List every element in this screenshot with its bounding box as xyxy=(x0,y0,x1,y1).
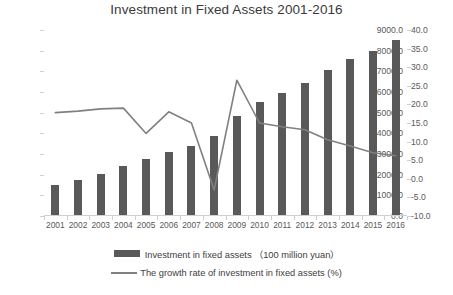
x-axis-tick-label: 2002 xyxy=(69,220,88,230)
right-axis-tick-label: -5.0 xyxy=(411,192,451,202)
x-axis-tick xyxy=(67,216,68,220)
x-axis-tick xyxy=(294,216,295,220)
x-axis-tick-label: 2009 xyxy=(228,220,247,230)
right-axis-tick-label: 5.0 xyxy=(411,155,451,165)
x-axis-tick xyxy=(407,216,408,220)
x-axis-tick xyxy=(339,216,340,220)
right-axis-tick-label: 40.0 xyxy=(411,25,451,35)
x-axis-tick-label: 2001 xyxy=(46,220,65,230)
left-axis-tick xyxy=(40,113,44,114)
x-axis-tick xyxy=(362,216,363,220)
x-axis-tick xyxy=(384,216,385,220)
right-axis-tick xyxy=(407,123,411,124)
right-axis-tick xyxy=(407,197,411,198)
right-axis-tick-label: 35.0 xyxy=(411,44,451,54)
x-axis-tick xyxy=(157,216,158,220)
x-axis-tick xyxy=(226,216,227,220)
x-axis-tick-label: 2012 xyxy=(296,220,315,230)
right-axis-tick xyxy=(407,67,411,68)
right-axis-tick-label: 0.0 xyxy=(411,174,451,184)
legend-line-swatch-icon xyxy=(111,272,137,274)
x-axis-tick xyxy=(203,216,204,220)
right-axis-tick xyxy=(407,160,411,161)
x-axis-tick xyxy=(89,216,90,220)
right-axis-tick-label: 20.0 xyxy=(411,99,451,109)
plot-area xyxy=(44,30,407,216)
x-axis-tick-label: 2005 xyxy=(137,220,156,230)
x-axis-tick xyxy=(44,216,45,220)
x-axis-tick-label: 2013 xyxy=(318,220,337,230)
left-axis-tick xyxy=(40,92,44,93)
x-axis-tick-label: 2010 xyxy=(250,220,269,230)
x-axis-tick-label: 2004 xyxy=(114,220,133,230)
x-axis-tick-label: 2007 xyxy=(182,220,201,230)
left-axis-tick xyxy=(40,195,44,196)
right-axis-tick xyxy=(407,104,411,105)
x-axis-tick xyxy=(271,216,272,220)
x-axis-tick xyxy=(180,216,181,220)
x-axis-tick-label: 2016 xyxy=(386,220,405,230)
right-axis-tick xyxy=(407,86,411,87)
right-axis-tick xyxy=(407,30,411,31)
chart-title: Investment in Fixed Assets 2001-2016 xyxy=(0,2,453,17)
x-axis-tick-label: 2006 xyxy=(159,220,178,230)
growth-rate-line xyxy=(55,80,395,190)
x-axis-tick-label: 2014 xyxy=(341,220,360,230)
left-axis-tick xyxy=(40,175,44,176)
chart-container: Investment in Fixed Assets 2001-2016 0.0… xyxy=(0,0,453,295)
legend-bar-swatch-icon xyxy=(114,250,140,257)
right-axis-tick-label: 15.0 xyxy=(411,118,451,128)
right-axis-tick-label: -10.0 xyxy=(411,211,451,221)
x-axis-tick-label: 2015 xyxy=(364,220,383,230)
x-axis-tick-label: 2003 xyxy=(91,220,110,230)
left-axis-tick xyxy=(40,154,44,155)
line-series xyxy=(44,30,407,216)
x-axis-tick xyxy=(316,216,317,220)
left-axis-tick xyxy=(40,30,44,31)
x-axis-tick xyxy=(112,216,113,220)
left-axis-tick xyxy=(40,71,44,72)
right-axis-tick-label: 30.0 xyxy=(411,62,451,72)
legend-item-investment: Investment in fixed assets （100 million … xyxy=(0,244,453,263)
chart-legend: Investment in fixed assets （100 million … xyxy=(0,244,453,282)
right-axis-tick xyxy=(407,179,411,180)
x-axis-tick xyxy=(248,216,249,220)
legend-item-label: Investment in fixed assets （100 million … xyxy=(145,247,340,261)
legend-item-label: The growth rate of investment in fixed a… xyxy=(140,268,342,278)
x-axis-tick-label: 2008 xyxy=(205,220,224,230)
right-axis-tick xyxy=(407,49,411,50)
right-axis-tick-label: 10.0 xyxy=(411,137,451,147)
right-axis-tick-label: 25.0 xyxy=(411,81,451,91)
x-axis-tick xyxy=(135,216,136,220)
legend-item-growth-rate: The growth rate of investment in fixed a… xyxy=(0,263,453,282)
x-axis-tick-label: 2011 xyxy=(273,220,291,230)
left-axis-tick xyxy=(40,51,44,52)
right-axis-tick xyxy=(407,142,411,143)
left-axis-tick xyxy=(40,133,44,134)
